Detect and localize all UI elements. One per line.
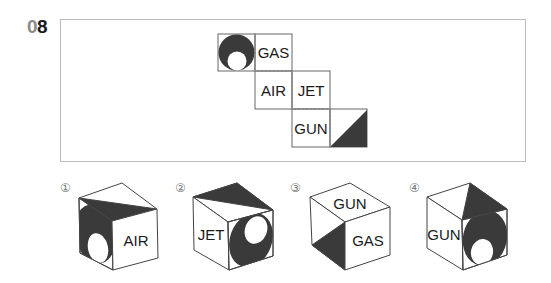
option-3-top-label: GUN [333, 195, 366, 212]
option-3-cube[interactable]: ③ GUN GAS [290, 181, 390, 270]
net-face-gun: GUN [292, 109, 330, 147]
option-1-cube[interactable]: ① AIR [60, 181, 158, 270]
option-2-marker: ② [175, 181, 186, 195]
air-label: AIR [261, 82, 286, 99]
gas-label: GAS [258, 44, 290, 61]
jet-label: JET [298, 82, 325, 99]
option-3-marker: ③ [290, 181, 301, 195]
option-1-marker: ① [60, 181, 71, 195]
option-2-left-label: JET [198, 226, 225, 243]
net-face-gas: GAS [255, 34, 292, 71]
option-4-marker: ④ [409, 181, 420, 195]
option-4-cube[interactable]: ④ GUN [409, 181, 512, 270]
option-2-cube[interactable]: ② JET [175, 181, 280, 273]
net-face-circle [218, 34, 255, 71]
net-face-jet: JET [292, 71, 330, 109]
figure-canvas: GAS AIR JET GUN [0, 0, 551, 283]
net-face-triangle [330, 109, 367, 147]
option-3-right-label: GAS [352, 232, 384, 249]
option-4-left-label: GUN [427, 226, 460, 243]
net-face-air: AIR [255, 71, 292, 109]
cube-net: GAS AIR JET GUN [218, 34, 367, 147]
gun-label: GUN [294, 120, 327, 137]
option-1-right-label: AIR [123, 232, 148, 249]
